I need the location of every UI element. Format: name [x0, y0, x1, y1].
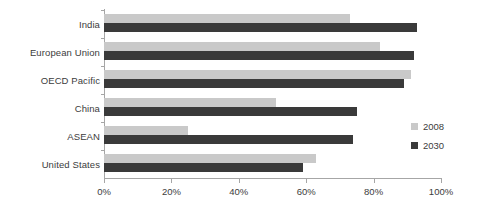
- y-axis-tick: [101, 10, 105, 11]
- category-label: European Union: [30, 47, 100, 58]
- category-label-wrapper: OECD Pacific: [2, 66, 100, 94]
- y-axis-tick: [101, 66, 105, 67]
- y-axis-tick: [101, 94, 105, 95]
- category-label-wrapper: China: [2, 94, 100, 122]
- y-axis-tick: [101, 122, 105, 123]
- bar-2008-united-states: [104, 154, 316, 163]
- bar-chart: IndiaEuropean UnionOECD PacificChinaASEA…: [0, 0, 493, 211]
- y-axis-tick: [101, 150, 105, 151]
- chart-legend: 20082030: [411, 119, 444, 157]
- category-label-wrapper: United States: [2, 150, 100, 178]
- bar-2008-asean: [104, 126, 188, 135]
- category-row: OECD Pacific: [104, 66, 441, 94]
- bar-2008-china: [104, 98, 276, 107]
- bar-2030-china: [104, 107, 357, 116]
- x-axis-tick-label: 40%: [229, 186, 248, 197]
- legend-item-2008[interactable]: 2008: [411, 119, 444, 134]
- bar-2008-european-union: [104, 42, 380, 51]
- bar-2030-oecd-pacific: [104, 79, 404, 88]
- category-label: ASEAN: [67, 131, 100, 142]
- x-axis-tick: [441, 179, 442, 183]
- category-row: ASEAN: [104, 122, 441, 150]
- legend-label: 2008: [423, 121, 444, 132]
- category-label: India: [79, 19, 100, 30]
- plot-area: IndiaEuropean UnionOECD PacificChinaASEA…: [104, 10, 441, 178]
- category-label-wrapper: India: [2, 10, 100, 38]
- legend-swatch-icon: [411, 142, 418, 149]
- bar-2008-oecd-pacific: [104, 70, 411, 79]
- category-row: European Union: [104, 38, 441, 66]
- category-row: United States: [104, 150, 441, 178]
- category-label: OECD Pacific: [41, 75, 100, 86]
- x-axis-tick-label: 100%: [429, 186, 453, 197]
- y-axis-tick: [101, 38, 105, 39]
- bar-2030-european-union: [104, 51, 414, 60]
- bar-2030-india: [104, 23, 417, 32]
- x-axis-tick: [104, 179, 105, 183]
- category-row: India: [104, 10, 441, 38]
- category-label-wrapper: ASEAN: [2, 122, 100, 150]
- bar-2030-asean: [104, 135, 353, 144]
- x-axis-tick-label: 0%: [97, 186, 111, 197]
- bar-2008-india: [104, 14, 350, 23]
- legend-item-2030[interactable]: 2030: [411, 138, 444, 153]
- category-label: United States: [42, 159, 100, 170]
- bar-2030-united-states: [104, 163, 303, 172]
- category-label-wrapper: European Union: [2, 38, 100, 66]
- legend-label: 2030: [423, 140, 444, 151]
- category-label: China: [75, 103, 100, 114]
- x-axis-tick-label: 60%: [297, 186, 316, 197]
- category-row: China: [104, 94, 441, 122]
- x-axis-tick: [374, 179, 375, 183]
- x-axis-tick: [306, 179, 307, 183]
- x-axis-tick-label: 80%: [364, 186, 383, 197]
- x-axis-line: [104, 178, 442, 179]
- legend-swatch-icon: [411, 123, 418, 130]
- x-axis-tick: [239, 179, 240, 183]
- x-axis-tick-label: 20%: [162, 186, 181, 197]
- x-axis-tick: [171, 179, 172, 183]
